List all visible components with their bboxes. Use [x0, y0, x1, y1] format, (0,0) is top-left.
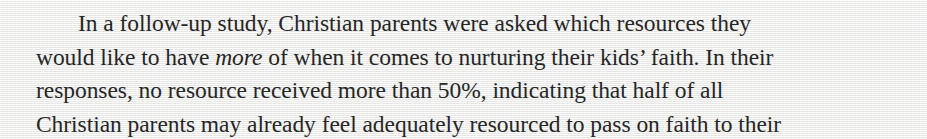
line-1-text-run-1: In a follow-up study, Christian parents …: [78, 10, 751, 36]
paragraph-line-4: Christian parents may already feel adequ…: [36, 108, 891, 139]
paragraph-line-3: responses, no resource received more tha…: [36, 74, 891, 108]
line-2-text-run-1: would like to have: [36, 44, 215, 70]
line-4-text-run-1: Christian parents may already feel adequ…: [36, 111, 781, 137]
body-paragraph: In a follow-up study, Christian parents …: [36, 0, 891, 139]
line-3-text-run-1: responses, no resource received more tha…: [36, 77, 723, 103]
paragraph-line-2: would like to have more of when it comes…: [36, 41, 891, 75]
paragraph-line-1: In a follow-up study, Christian parents …: [36, 7, 891, 41]
scanned-page-surface: In a follow-up study, Christian parents …: [0, 0, 927, 139]
line-2-text-run-3: of when it comes to nurturing their kids…: [262, 44, 773, 70]
emphasized-word-more: more: [215, 44, 262, 70]
